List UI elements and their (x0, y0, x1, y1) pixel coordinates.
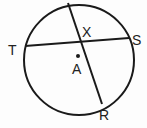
center-point-a (76, 54, 80, 58)
circle (24, 5, 134, 115)
label-s: S (132, 33, 141, 47)
label-r: R (99, 108, 109, 122)
chord-r (68, 3, 102, 104)
label-t: T (8, 43, 17, 57)
circle-diagram: T S R X A (0, 0, 147, 128)
label-a: A (72, 62, 81, 76)
chord-ts (25, 38, 129, 46)
label-x: X (82, 25, 91, 39)
